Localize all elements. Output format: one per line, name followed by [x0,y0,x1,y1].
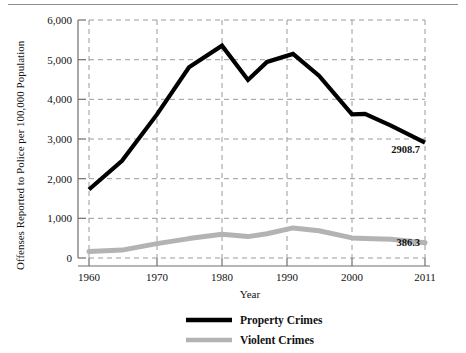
y-tick-label-2000: 2,000 [47,173,72,185]
y-tick-label-3000: 3,000 [47,133,72,145]
series-line-violent-crimes [89,228,425,252]
chart-legend: Property Crimes Violent Crimes [186,314,323,346]
legend-label-violent-crimes: Violent Crimes [240,334,315,346]
x-tick-label-1980: 1980 [211,271,234,283]
x-axis [78,258,430,266]
y-tick-label-5000: 5,000 [47,54,72,66]
y-tick-label-4000: 4,000 [47,93,72,105]
x-tick-label-1970: 1970 [146,271,169,283]
line-chart-svg: Offenses Reported to Police per 100,000 … [0,0,466,353]
y-tick-label-1000: 1,000 [47,212,72,224]
x-tick-label-1960: 1960 [78,271,101,283]
property-crimes-value-label: 2908.7 [391,144,420,155]
y-axis [78,20,86,258]
x-tick-label-2011: 2011 [414,271,436,283]
y-tick-label-6000: 6,000 [47,14,72,26]
y-tick-label-0: 0 [67,252,73,264]
legend-label-property-crimes: Property Crimes [240,314,323,327]
x-tick-label-1990: 1990 [276,271,299,283]
x-axis-title: Year [240,288,261,300]
violent-crimes-value-label: 386.3 [396,237,420,248]
x-tick-label-2000: 2000 [341,271,364,283]
series-line-property-crimes [89,46,425,190]
chart-figure: Offenses Reported to Police per 100,000 … [0,0,466,353]
y-axis-title: Offenses Reported to Police per 100,000 … [14,40,26,270]
